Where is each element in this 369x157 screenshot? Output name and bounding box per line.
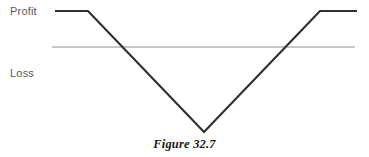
payoff-line bbox=[55, 11, 357, 132]
loss-label: Loss bbox=[10, 67, 34, 79]
profit-label: Profit bbox=[10, 5, 37, 17]
payoff-chart bbox=[0, 0, 369, 157]
figure-container: Profit Loss Figure 32.7 bbox=[0, 0, 369, 157]
figure-caption: Figure 32.7 bbox=[0, 137, 369, 152]
